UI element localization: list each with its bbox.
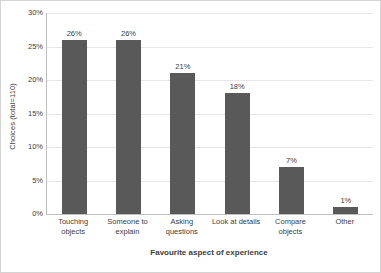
y-axis-tick-label: 30% [19,9,43,17]
bar[interactable]: 21% [170,73,195,214]
bar-slot: 1% [319,13,373,214]
bar-slot: 21% [156,13,210,214]
y-axis-tick-label: 20% [19,76,43,84]
x-axis-tick-label: Asking questions [155,217,209,236]
x-axis-tick-label: Someone to explain [100,217,154,236]
bar-series: 26%26%21%18%7%1% [47,13,373,214]
y-axis-tick-label: 25% [19,43,43,51]
bar[interactable]: 7% [279,167,304,214]
bar-slot: 26% [101,13,155,214]
bar-slot: 7% [264,13,318,214]
x-axis-tick-label: Other [318,217,372,236]
bar[interactable]: 1% [333,207,358,214]
x-axis-tick-label: Touching objects [46,217,100,236]
bar[interactable]: 26% [116,40,141,214]
y-axis-tick-label: 15% [19,110,43,118]
y-axis-tick-label: 0% [19,210,43,218]
x-axis-tick-label: Compare objects [263,217,317,236]
bar-value-label: 18% [230,83,245,91]
bar-slot: 18% [210,13,264,214]
y-axis-tick-label: 10% [19,143,43,151]
x-axis-tick-label: Look at details [209,217,263,236]
x-axis-title: Favourite aspect of experience [46,248,372,257]
y-axis-tick-label: 5% [19,177,43,185]
bar-value-label: 21% [175,63,190,71]
y-axis-tick-labels: 0%5%10%15%20%25%30% [19,13,43,214]
bar-value-label: 26% [67,30,82,38]
x-axis-tick-labels: Touching objectsSomeone to explainAsking… [46,217,372,236]
y-axis-title-text: Choices (total=110) [8,83,17,150]
bar-value-label: 7% [286,157,297,165]
bar[interactable]: 18% [225,93,250,214]
bar-value-label: 26% [121,30,136,38]
bar-chart-figure: Choices (total=110) 0%5%10%15%20%25%30% … [0,0,381,273]
bar[interactable]: 26% [62,40,87,214]
bar-slot: 26% [47,13,101,214]
bar-value-label: 1% [340,197,351,205]
y-axis-title: Choices (total=110) [5,1,19,231]
plot-area: 26%26%21%18%7%1% [46,13,373,215]
